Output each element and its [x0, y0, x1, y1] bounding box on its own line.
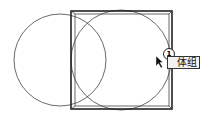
inner-rectangle	[75, 14, 169, 106]
left-circle	[14, 14, 106, 106]
cursor-tooltip-label: 体组	[167, 56, 200, 69]
mouse-cursor-icon	[156, 56, 163, 68]
